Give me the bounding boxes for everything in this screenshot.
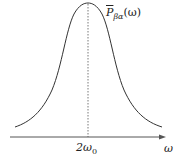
- bell-curve: [15, 3, 162, 127]
- curve-label-subscript: βα: [113, 12, 123, 21]
- spectral-density-diagram: [0, 0, 185, 162]
- x-axis-arrowhead-icon: [159, 135, 166, 140]
- x-axis-label: ω: [164, 143, 173, 154]
- curve-label: Pβα(ω): [106, 7, 141, 21]
- x-tick-coefficient: 2ω: [76, 141, 92, 154]
- curve-label-argument: (ω): [123, 6, 141, 19]
- x-tick-subscript: 0: [92, 147, 97, 156]
- x-tick-label: 2ω0: [76, 142, 97, 156]
